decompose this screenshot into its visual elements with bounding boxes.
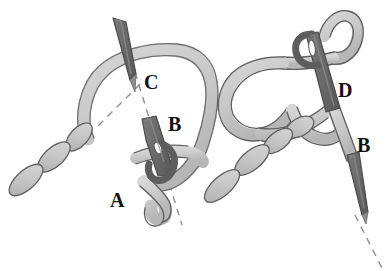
dashed-guide-axis-right (355, 215, 382, 268)
dashed-guide-axis-upper-left (95, 84, 140, 129)
label-d-right-panel: D (338, 80, 352, 100)
chain-segment (4, 159, 48, 201)
label-c-left-panel: C (144, 72, 158, 92)
label-b-right-panel: B (357, 135, 370, 155)
right-panel-group (199, 11, 382, 268)
label-a-left-panel: A (110, 190, 124, 210)
label-b-left-panel: B (168, 114, 181, 134)
cord-chain-right (199, 112, 317, 208)
illustration-canvas (0, 0, 388, 271)
chain-segment (199, 164, 244, 208)
cord-chain-left (4, 118, 97, 201)
figure-root: C B A D B (0, 0, 388, 271)
